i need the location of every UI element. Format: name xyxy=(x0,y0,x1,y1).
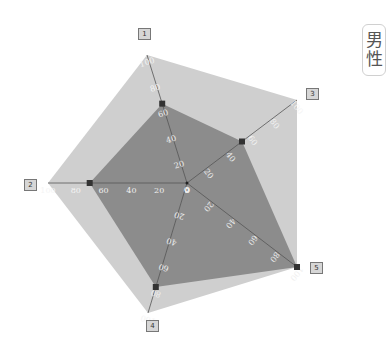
gender-char-1: 男 xyxy=(366,31,383,50)
tick-label: 100 xyxy=(40,186,55,195)
axis-label-5: 5 xyxy=(310,262,323,274)
radar-chart: 0204060801000204060801000204060801000204… xyxy=(0,0,391,351)
axis-label-2: 2 xyxy=(24,179,37,191)
tick-label: 20 xyxy=(154,186,164,195)
data-point[interactable] xyxy=(294,264,300,270)
data-point[interactable] xyxy=(239,139,245,145)
tick-label: 40 xyxy=(126,186,136,195)
gender-char-2: 性 xyxy=(366,50,383,69)
center-dot xyxy=(186,182,189,185)
gender-badge[interactable]: 男 性 xyxy=(362,24,386,76)
axis-label-1: 1 xyxy=(138,28,151,40)
tick-label: 80 xyxy=(71,186,81,195)
axis-label-4: 4 xyxy=(146,320,159,332)
data-point[interactable] xyxy=(153,284,159,290)
tick-label: 60 xyxy=(99,186,109,195)
axis-label-3: 3 xyxy=(306,88,319,100)
data-point[interactable] xyxy=(87,180,93,186)
data-point[interactable] xyxy=(159,101,165,107)
